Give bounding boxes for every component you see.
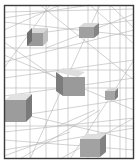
- cube-top-left: [27, 28, 48, 46]
- cube-bottom: [80, 134, 106, 157]
- cube-left: [5, 94, 32, 122]
- wireframe-cubes-artwork: [0, 0, 137, 162]
- cube-top-right: [79, 23, 99, 38]
- cube-center: [56, 68, 85, 96]
